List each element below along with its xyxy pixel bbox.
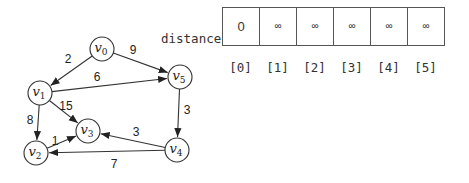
- index-label-1: [1]: [259, 60, 296, 75]
- edge-weight-v4-v2: 7: [111, 157, 118, 171]
- node-v1: v1: [28, 81, 52, 105]
- node-v5: v5: [168, 65, 192, 89]
- node-v2: v2: [24, 141, 48, 165]
- distance-index-row: [0] [1] [2] [3] [4] [5]: [222, 60, 444, 75]
- distance-cell-1: ∞: [260, 8, 297, 45]
- distance-label: distance: [161, 31, 221, 46]
- edge-weight-v1-v3: 15: [59, 99, 73, 113]
- node-v3: v3: [76, 119, 100, 143]
- edge-weight-v2-v3: 1: [52, 134, 59, 148]
- node-v0: v0: [90, 37, 114, 61]
- edge-weight-v1-v2: 8: [27, 113, 34, 127]
- edge-weight-v4-v3: 3: [133, 125, 140, 139]
- index-label-0: [0]: [222, 60, 259, 75]
- distance-cell-0: 0: [223, 8, 260, 45]
- edge-v5-v4: [178, 89, 180, 137]
- distance-cell-3: ∞: [334, 8, 371, 45]
- edge-v1-v2: [37, 105, 39, 140]
- node-v4: v4: [165, 138, 189, 162]
- distance-cell-2: ∞: [297, 8, 334, 45]
- edge-v1-v5: [52, 78, 167, 91]
- index-label-4: [4]: [370, 60, 407, 75]
- index-label-2: [2]: [296, 60, 333, 75]
- edge-weight-v0-v1: 2: [65, 52, 72, 66]
- distance-array: 0 ∞ ∞ ∞ ∞ ∞: [222, 7, 445, 46]
- index-label-3: [3]: [333, 60, 370, 75]
- edge-v4-v2: [49, 150, 165, 152]
- edge-v0-v1: [51, 56, 93, 86]
- edge-v0-v5: [113, 53, 167, 73]
- distance-cell-5: ∞: [408, 8, 445, 45]
- edge-weight-v1-v5: 6: [94, 70, 101, 84]
- edge-weight-v0-v5: 9: [130, 43, 137, 57]
- distance-cell-4: ∞: [371, 8, 408, 45]
- edge-weight-v5-v4: 3: [184, 103, 191, 117]
- weighted-directed-graph: 2961581337 v0v1v2v3v4v5: [0, 0, 215, 183]
- index-label-5: [5]: [407, 60, 444, 75]
